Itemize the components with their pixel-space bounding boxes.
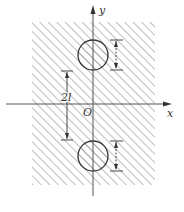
x-axis-label: x — [167, 107, 174, 120]
diagram-canvas: y x O 2l — [0, 0, 184, 212]
y-axis-label: y — [98, 4, 106, 17]
center-distance-label: 2l — [60, 91, 72, 104]
origin-label: O — [83, 106, 92, 119]
